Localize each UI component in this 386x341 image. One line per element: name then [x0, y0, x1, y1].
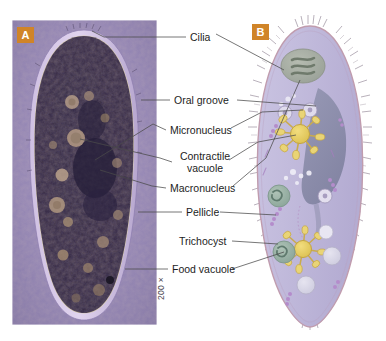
panel-a-badge: A: [17, 27, 34, 43]
panel-b-badge: B: [252, 24, 269, 40]
label-contractile-vacuole: Contractile vacuole: [176, 150, 234, 174]
label-micronucleus: Micronucleus: [170, 124, 232, 136]
label-cilia: Cilia: [190, 31, 210, 43]
diagram-food-vacuole-pale-bottom: [297, 276, 315, 294]
diagram-food-vacuole-pale-upper: [319, 225, 333, 239]
diagram-macronucleus: [281, 49, 325, 83]
label-food-vacuole: Food vacuole: [172, 263, 235, 275]
label-macronucleus: Macronucleus: [170, 182, 235, 194]
label-contractile-vacuole-line1: Contractile: [180, 150, 230, 162]
label-contractile-vacuole-line2: vacuole: [187, 162, 223, 174]
diagram-gullet-channel: [316, 204, 319, 234]
label-oral-groove: Oral groove: [174, 94, 229, 106]
label-trichocyst: Trichocyst: [179, 235, 226, 247]
panel-a-micrograph: [12, 20, 157, 325]
label-pellicle: Pellicle: [186, 206, 219, 218]
diagram-food-vacuole-pale-right: [323, 247, 341, 265]
diagram-food-vacuole-upper: [268, 185, 290, 207]
magnification-caption: 200 ×: [156, 277, 166, 300]
